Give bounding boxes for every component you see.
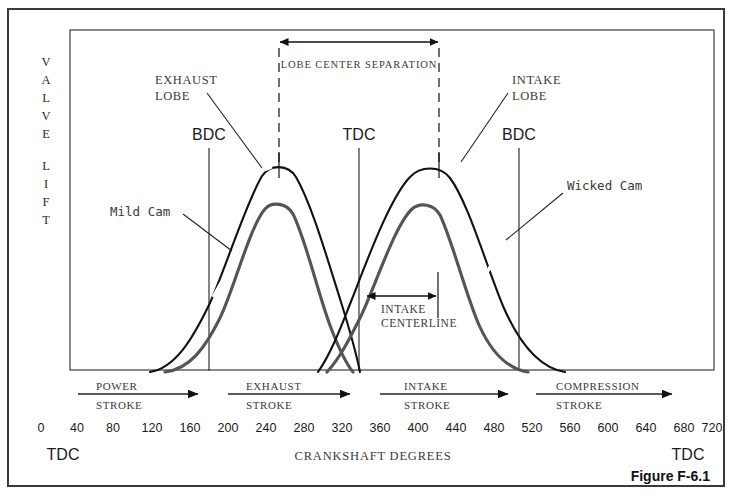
x-tick-label: 160 [180,421,201,435]
bdc-left-label: BDC [192,126,226,143]
x-tick-label: 480 [484,421,505,435]
x-tick-label: 80 [106,421,120,435]
x-tick-label: 360 [370,421,391,435]
stroke-sublabel: STROKE [404,399,450,411]
stroke-label: COMPRESSION [556,380,640,392]
y-axis-letter: F [43,195,50,209]
x-tick-label: 40 [70,421,84,435]
exhaust-lobe-label-line1: EXHAUST [155,73,218,87]
x-tick-label: 320 [332,421,353,435]
x-tick-label: 600 [598,421,619,435]
stroke-label: INTAKE [404,380,448,392]
y-axis-letter: V [41,109,50,123]
tdc-center-label: TDC [343,126,376,143]
y-axis-letter: L [42,159,50,173]
x-tick-label: 440 [446,421,467,435]
y-axis-letter: I [44,177,48,191]
x-tick-label: 680 [674,421,695,435]
x-tick-label: 520 [522,421,543,435]
stroke-label: POWER [96,380,138,392]
tdc-left-end-label: TDC [47,446,80,463]
intake-centerline-label-line2: CENTERLINE [381,317,457,329]
stroke-sublabel: STROKE [96,399,142,411]
x-axis-title: CRANKSHAFT DEGREES [295,449,452,463]
y-axis-letter: E [42,127,50,141]
x-tick-label: 560 [560,421,581,435]
x-tick-label: 0 [38,421,45,435]
stroke-label: EXHAUST [246,380,302,392]
x-tick-label: 720 [702,421,723,435]
stroke-sublabel: STROKE [556,399,602,411]
y-axis-letter: V [41,55,50,69]
x-tick-label: 400 [408,421,429,435]
exhaust-lobe-label-line2: LOBE [155,89,190,103]
x-tick-label: 240 [256,421,277,435]
y-axis-letter: L [42,91,50,105]
valve-lift-figure: V A L V E L I F T LOBE CENTER SEPARATION [0,0,737,502]
intake-lobe-label-line1: INTAKE [512,73,561,87]
y-axis-letter: A [41,73,50,87]
x-tick-label: 280 [294,421,315,435]
tdc-right-end-label: TDC [672,446,705,463]
x-tick-label: 640 [636,421,657,435]
y-axis-letter: T [42,213,50,227]
figure-caption: Figure F-6.1 [631,468,711,484]
x-tick-label: 200 [218,421,239,435]
mild-cam-label: Mild Cam [110,204,170,219]
lobe-separation-label: LOBE CENTER SEPARATION [281,59,438,70]
wicked-cam-label: Wicked Cam [567,178,642,193]
bdc-right-label: BDC [502,126,536,143]
x-tick-label: 120 [142,421,163,435]
stroke-sublabel: STROKE [246,399,292,411]
intake-centerline-label-line1: INTAKE [381,303,426,315]
intake-lobe-label-line2: LOBE [512,89,547,103]
